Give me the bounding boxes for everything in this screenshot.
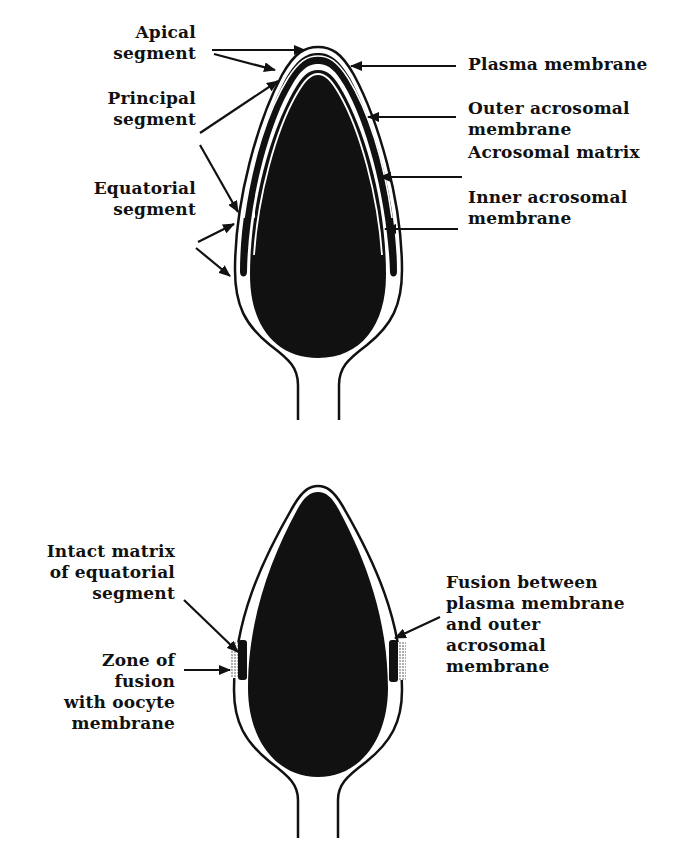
right-fusion-zone [397,642,406,680]
label-apical-segment: Apical segment [60,22,196,64]
left-equatorial-remnant [238,640,247,680]
label-inner-acrosomal-membrane: Inner acrosomal membrane [468,187,627,229]
label-outer-acrosomal-membrane: Outer acrosomal membrane [468,98,630,140]
label-zone-of-fusion: Zone of fusion with oocyte membrane [20,650,175,734]
label-equatorial-segment: Equatorial segment [50,178,196,220]
label-intact-matrix: Intact matrix of equatorial segment [20,541,175,604]
label-principal-segment: Principal segment [60,88,196,130]
top-sperm-head [235,47,402,420]
bottom-sperm-head [231,486,406,838]
bottom-nucleus [248,492,388,777]
diagram-canvas: Apical segment Principal segment Equator… [0,0,677,855]
label-acrosomal-matrix: Acrosomal matrix [468,142,640,163]
label-fusion-between-membranes: Fusion between plasma membrane and outer… [446,572,625,677]
label-plasma-membrane: Plasma membrane [468,54,648,75]
right-equatorial-remnant [389,640,398,682]
